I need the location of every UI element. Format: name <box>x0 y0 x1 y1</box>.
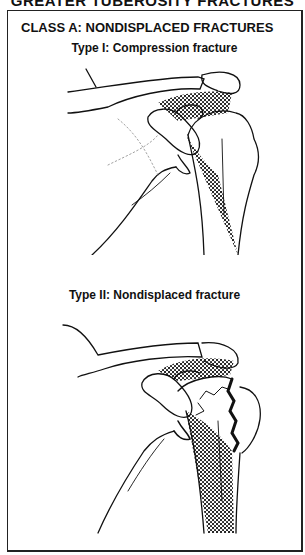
page-heading: GREATER TUBEROSITY FRACTURES <box>0 0 305 9</box>
shoulder-illustration-type-2 <box>8 311 298 551</box>
figure-frame: CLASS A: NONDISPLACED FRACTURES Type I: … <box>7 10 303 552</box>
class-title: CLASS A: NONDISPLACED FRACTURES <box>21 20 273 35</box>
figure-caption-type-2: Type II: Nondisplaced fracture <box>8 288 301 302</box>
shoulder-illustration-type-1 <box>8 55 298 255</box>
figure-caption-type-1: Type I: Compression fracture <box>8 41 301 55</box>
